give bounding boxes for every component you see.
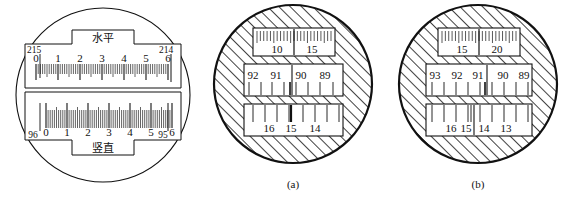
b-bottom-window: 16 15 14 13	[426, 104, 532, 136]
a-bottom-number-15: 15	[286, 122, 298, 134]
b-top-number-15: 15	[457, 43, 469, 55]
a-middle-number-90: 90	[296, 69, 308, 81]
b-bottom-number-15: 15	[461, 122, 473, 134]
horizontal-number-2: 2	[77, 52, 83, 64]
horizontal-number-3: 3	[99, 52, 105, 64]
b-bottom-number-16: 16	[446, 122, 458, 134]
horizontal-number-4: 4	[121, 52, 127, 64]
a-bottom-window: 16 15 14	[244, 104, 343, 136]
a-middle-number-89: 89	[320, 69, 332, 81]
vertical-right-value: 95	[158, 130, 168, 140]
b-middle-number-91: 91	[473, 69, 484, 81]
b-middle-number-89: 89	[519, 69, 531, 81]
horizontal-number-5: 5	[143, 52, 149, 64]
panel-left: 水平 215 214 0 1 2 3 4 5 6 竖直 96	[16, 8, 190, 182]
b-middle-number-93: 93	[430, 69, 442, 81]
a-bottom-number-14: 14	[310, 122, 322, 134]
b-bottom-number-14: 14	[479, 122, 491, 134]
b-middle-number-90: 90	[498, 69, 510, 81]
a-middle-number-92: 92	[248, 69, 259, 81]
b-bottom-number-13: 13	[501, 122, 513, 134]
b-top-window: 15 20	[438, 28, 520, 56]
b-middle-number-92: 92	[452, 69, 463, 81]
a-bottom-number-16: 16	[264, 122, 276, 134]
a-top-window: 10 15	[253, 28, 335, 56]
horizontal-number-6: 6	[165, 52, 171, 64]
vertical-left-value: 96	[28, 130, 38, 140]
a-top-number-15: 15	[307, 43, 319, 55]
a-middle-number-91: 91	[271, 69, 282, 81]
horizontal-number-1: 1	[55, 52, 61, 64]
b-top-number-20: 20	[492, 43, 504, 55]
figure-root: 水平 215 214 0 1 2 3 4 5 6 竖直 96	[0, 0, 572, 201]
figure-svg: 水平 215 214 0 1 2 3 4 5 6 竖直 96	[0, 0, 572, 201]
horizontal-number-0: 0	[33, 52, 39, 64]
a-middle-window: 92 91 90 89	[244, 64, 343, 96]
vertical-window-label: 竖直	[92, 141, 114, 155]
horizontal-window-label: 水平	[92, 32, 114, 45]
caption-a: (a)	[287, 178, 300, 191]
b-middle-window: 93 92 91 90 89	[426, 64, 532, 96]
caption-b: (b)	[472, 178, 485, 191]
a-top-number-10: 10	[272, 43, 284, 55]
